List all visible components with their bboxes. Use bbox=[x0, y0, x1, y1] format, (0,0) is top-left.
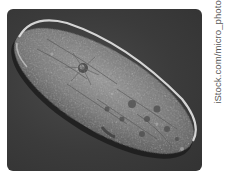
photo-credit: iStock.com/micro_photo bbox=[212, 0, 223, 104]
paramecium-photo bbox=[7, 9, 202, 171]
figure: iStock.com/micro_photo bbox=[0, 0, 230, 178]
paramecium-illustration bbox=[7, 9, 202, 171]
